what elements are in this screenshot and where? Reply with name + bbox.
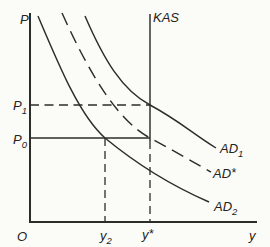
as-ad-diagram: P KAS P1 P0 O y2 y* y AD1 AD* AD2 xyxy=(0,0,270,247)
diagram-canvas: P KAS P1 P0 O y2 y* y AD1 AD* AD2 xyxy=(0,0,270,247)
y2-label: y2 xyxy=(99,228,113,246)
ad-star-label: AD* xyxy=(212,166,237,181)
ad-star-curve xyxy=(62,13,211,172)
kas-label: KAS xyxy=(153,10,179,25)
ad2-curve xyxy=(38,16,209,202)
p1-label: P1 xyxy=(13,98,27,116)
output-axis-label: y xyxy=(248,228,257,243)
y-star-label: y* xyxy=(141,227,155,242)
ad1-label: AD1 xyxy=(219,141,243,159)
price-axis-label: P xyxy=(20,12,29,27)
p0-label: P0 xyxy=(13,132,28,150)
ad2-label: AD2 xyxy=(213,199,238,217)
origin-label: O xyxy=(17,229,27,244)
